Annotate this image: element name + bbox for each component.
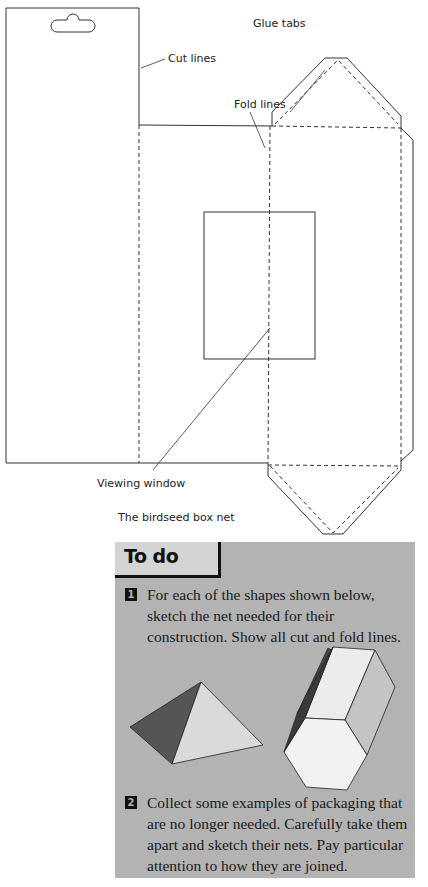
fold-line-middle: [268, 126, 270, 463]
label-glue-tabs: Glue tabs: [253, 17, 306, 30]
task-2: 2 Collect some examples of packaging tha…: [125, 792, 415, 876]
pyramid-shape: [130, 682, 263, 764]
cut-line-bottom-tab: [268, 463, 401, 534]
task-number-2: 2: [125, 796, 137, 809]
birdseed-box-net: [0, 0, 428, 540]
label-fold-lines: Fold lines: [234, 98, 286, 111]
hexagonal-prism-shape: [284, 647, 395, 790]
label-cut-lines: Cut lines: [168, 52, 216, 65]
todo-panel: To do 1 For each of the shapes shown bel…: [115, 542, 415, 878]
cut-line-top-tab: [272, 58, 413, 470]
cut-line-left-panel: [6, 8, 268, 463]
label-viewing-window: Viewing window: [97, 477, 185, 490]
fold-line-bottom: [268, 465, 401, 466]
viewing-window: [204, 212, 315, 359]
task-text-2: Collect some examples of packaging that …: [147, 792, 415, 876]
hang-hole: [51, 14, 95, 32]
diagram-caption: The birdseed box net: [118, 511, 234, 524]
fold-line-top: [272, 126, 401, 128]
